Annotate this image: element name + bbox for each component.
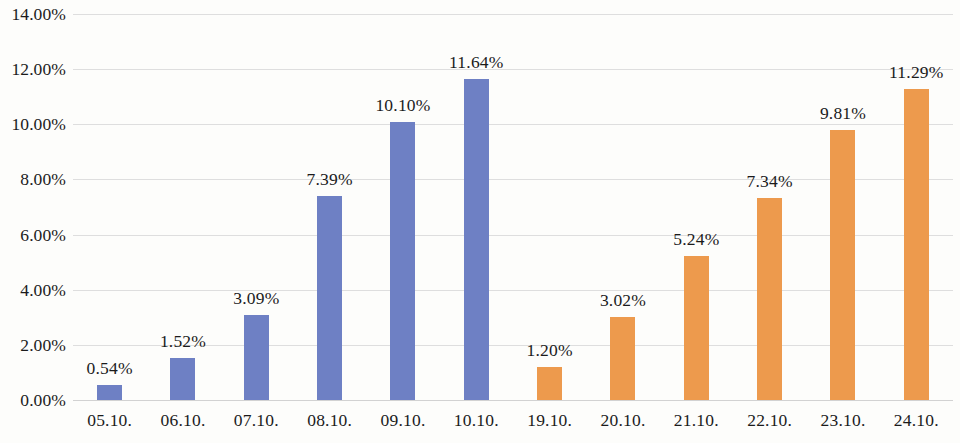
bar-band: 5.24% [660, 14, 733, 400]
y-axis-tick-label: 14.00% [2, 4, 66, 25]
y-axis-tick-label: 10.00% [2, 114, 66, 135]
bar[interactable] [684, 256, 709, 400]
plot-area: 0.54%1.52%3.09%7.39%10.10%11.64%1.20%3.0… [73, 14, 953, 400]
x-axis-band: 07.10. [220, 404, 293, 443]
bar-band: 11.64% [440, 14, 513, 400]
bar-value-label: 9.81% [820, 103, 866, 124]
bar-band: 1.20% [513, 14, 586, 400]
bar-band: 7.39% [293, 14, 366, 400]
bar-value-label: 11.29% [889, 62, 944, 83]
bar[interactable] [244, 315, 269, 400]
y-axis-tick-label: 4.00% [2, 279, 66, 300]
y-axis-tick-label: 8.00% [2, 169, 66, 190]
y-axis-tick-label: 0.00% [2, 390, 66, 411]
x-axis-tick-label: 20.10. [601, 410, 646, 431]
x-axis-tick-label: 19.10. [527, 410, 572, 431]
bar[interactable] [317, 196, 342, 400]
bar[interactable] [610, 317, 635, 400]
y-axis: 0.00%2.00%4.00%6.00%8.00%10.00%12.00%14.… [0, 14, 66, 400]
bar[interactable] [757, 198, 782, 400]
bar-value-label: 11.64% [449, 52, 504, 73]
bar[interactable] [390, 122, 415, 400]
x-axis-band: 23.10. [806, 404, 879, 443]
axis-baseline [73, 400, 953, 401]
bar-chart: 0.00%2.00%4.00%6.00%8.00%10.00%12.00%14.… [0, 0, 960, 443]
bar-band: 7.34% [733, 14, 806, 400]
x-axis-tick-label: 08.10. [307, 410, 352, 431]
bar-band: 3.02% [586, 14, 659, 400]
bar-band: 11.29% [880, 14, 953, 400]
y-axis-tick-label: 2.00% [2, 334, 66, 355]
x-axis-band: 06.10. [146, 404, 219, 443]
bar[interactable] [170, 358, 195, 400]
x-axis-tick-label: 23.10. [821, 410, 866, 431]
bar-value-label: 7.34% [747, 171, 793, 192]
x-axis-tick-label: 10.10. [454, 410, 499, 431]
x-axis-tick-label: 05.10. [87, 410, 132, 431]
x-axis-band: 09.10. [366, 404, 439, 443]
x-axis-tick-label: 07.10. [234, 410, 279, 431]
bar-band: 9.81% [806, 14, 879, 400]
x-axis-band: 10.10. [440, 404, 513, 443]
bar[interactable] [464, 79, 489, 400]
bar-band: 1.52% [146, 14, 219, 400]
bar-value-label: 3.09% [233, 288, 279, 309]
bar-value-label: 0.54% [87, 358, 133, 379]
bar-value-label: 1.20% [527, 340, 573, 361]
bar[interactable] [537, 367, 562, 400]
bar-value-label: 10.10% [375, 95, 430, 116]
y-axis-tick-label: 12.00% [2, 59, 66, 80]
x-axis-band: 22.10. [733, 404, 806, 443]
bar-value-label: 1.52% [160, 331, 206, 352]
x-axis-band: 08.10. [293, 404, 366, 443]
bar-value-label: 7.39% [307, 169, 353, 190]
bar[interactable] [97, 385, 122, 400]
bar-band: 3.09% [220, 14, 293, 400]
x-axis-band: 05.10. [73, 404, 146, 443]
x-axis: 05.10.06.10.07.10.08.10.09.10.10.10.19.1… [73, 404, 953, 443]
x-axis-tick-label: 06.10. [161, 410, 206, 431]
x-axis-band: 19.10. [513, 404, 586, 443]
bar-value-label: 5.24% [673, 229, 719, 250]
x-axis-tick-label: 24.10. [894, 410, 939, 431]
x-axis-tick-label: 21.10. [674, 410, 719, 431]
y-axis-tick-label: 6.00% [2, 224, 66, 245]
x-axis-tick-label: 09.10. [381, 410, 426, 431]
bar-band: 10.10% [366, 14, 439, 400]
bar[interactable] [830, 130, 855, 400]
x-axis-tick-label: 22.10. [747, 410, 792, 431]
bar[interactable] [904, 89, 929, 400]
bar-band: 0.54% [73, 14, 146, 400]
x-axis-band: 20.10. [586, 404, 659, 443]
bar-value-label: 3.02% [600, 290, 646, 311]
x-axis-band: 24.10. [880, 404, 953, 443]
x-axis-band: 21.10. [660, 404, 733, 443]
